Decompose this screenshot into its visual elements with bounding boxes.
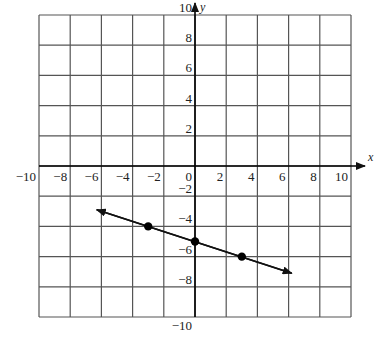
x-tick-label: 2 — [217, 169, 224, 184]
plotted-point — [238, 252, 246, 260]
x-tick-label: −4 — [116, 169, 130, 184]
x-tick-label: 8 — [310, 169, 317, 184]
x-tick-label: −10 — [16, 169, 36, 184]
x-tick-label: 10 — [335, 169, 348, 184]
y-tick-label: 8 — [186, 30, 193, 45]
y-tick-label: −10 — [172, 318, 192, 333]
x-tick-label: −6 — [85, 169, 99, 184]
x-tick-label: −2 — [147, 169, 161, 184]
y-tick-label: −4 — [178, 211, 192, 226]
y-tick-label: −6 — [178, 242, 192, 257]
x-tick-label: 6 — [279, 169, 286, 184]
coordinate-plane: −10−8−6−4−22468100108642−2−4−6−8−10 x y — [0, 0, 380, 341]
x-axis-label: x — [367, 150, 374, 164]
y-tick-label: 2 — [186, 121, 193, 136]
y-tick-label: −2 — [178, 181, 192, 196]
plotted-point — [144, 222, 152, 230]
y-tick-label: −8 — [178, 272, 192, 287]
plotted-point — [191, 237, 199, 245]
y-tick-label: 4 — [186, 91, 193, 106]
y-axis-label: y — [199, 0, 206, 14]
y-tick-label: 10 — [179, 0, 192, 15]
x-tick-label: 4 — [248, 169, 255, 184]
x-tick-label: −8 — [53, 169, 67, 184]
y-tick-label: 6 — [186, 60, 193, 75]
axes — [39, 3, 365, 317]
